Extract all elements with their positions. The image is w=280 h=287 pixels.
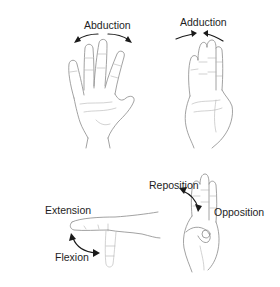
hand-movements-illustration: [0, 0, 280, 287]
abduction-hand-drawing: [69, 39, 134, 148]
extension-label: Extension: [45, 205, 91, 216]
adduction-hand-drawing: [185, 40, 232, 148]
opposition-label: Opposition: [214, 207, 264, 218]
reposition-label: Reposition: [149, 180, 199, 191]
abduction-arrows: [74, 34, 132, 43]
adduction-label: Adduction: [180, 17, 227, 28]
abduction-label: Abduction: [84, 20, 131, 31]
flexion-label: Flexion: [55, 252, 89, 263]
adduction-arrows: [176, 30, 223, 41]
